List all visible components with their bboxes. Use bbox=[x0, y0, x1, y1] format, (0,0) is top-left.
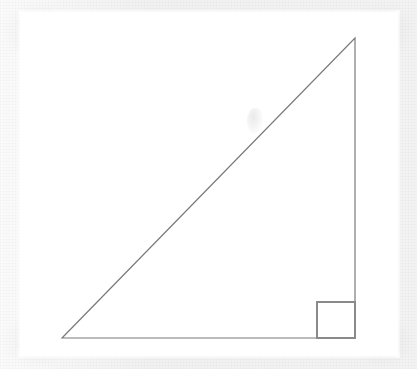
figure-root bbox=[0, 0, 417, 369]
right-triangle-shape bbox=[62, 38, 355, 338]
geometry-drawing bbox=[0, 0, 417, 369]
right-angle-square-marker bbox=[317, 302, 355, 338]
